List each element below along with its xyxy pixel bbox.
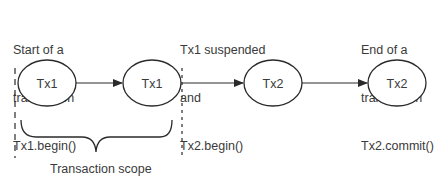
scope-label: Transaction scope <box>50 161 152 176</box>
node-tx2-begin: Tx2 <box>244 60 302 106</box>
node-label: Tx1 <box>142 77 163 91</box>
node-tx1-start: Tx1 <box>18 60 76 106</box>
node-label: Tx2 <box>387 77 408 91</box>
node-label: Tx2 <box>263 77 284 91</box>
node-tx1-continue: Tx1 <box>123 60 181 106</box>
node-tx2-commit: Tx2 <box>368 60 426 106</box>
scope-brace <box>21 120 172 152</box>
transaction-diagram: Tx1 Tx1 Tx2 Tx2 <box>0 0 441 176</box>
node-label: Tx1 <box>37 77 58 91</box>
